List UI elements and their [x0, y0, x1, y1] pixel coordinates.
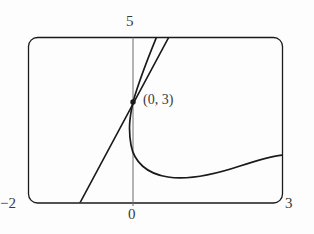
graph-screenshot: 5 0 −2 3 (0, 3) [0, 0, 314, 234]
point-annotation-label: (0, 3) [143, 93, 173, 107]
tangent-line [74, 20, 178, 214]
point-marker [130, 99, 135, 104]
x-max-label: 3 [285, 196, 293, 211]
plot-canvas [0, 0, 314, 234]
y-max-label: 5 [126, 14, 134, 29]
origin-label: 0 [128, 207, 136, 222]
x-min-label: −2 [0, 196, 16, 211]
